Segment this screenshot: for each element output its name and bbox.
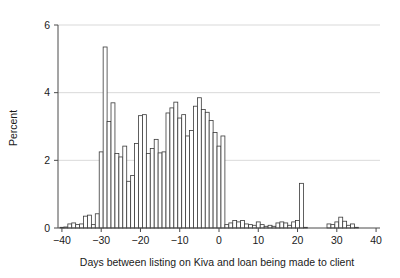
x-tick-label: 20 [292,234,304,246]
histogram-bar [335,222,339,228]
histogram-bar [115,154,119,228]
histogram-bar [213,133,217,228]
y-axis-label: Percent [7,110,19,146]
histogram-bar [280,222,284,228]
histogram-bar [150,148,154,228]
x-tick-label: 40 [370,234,382,246]
histogram-bar [343,221,347,228]
histogram-bar [87,215,91,228]
histogram-bar [248,225,252,228]
histogram-bar [241,221,245,228]
histogram-bar [111,103,115,228]
histogram-bar [142,115,146,228]
histogram-bar [186,136,190,228]
x-axis-ticks: −40−30−20−10010203040 [53,228,382,246]
histogram-bar [221,136,225,228]
histogram-bar [229,223,233,228]
x-axis-label: Days between listing on Kiva and loan be… [80,256,354,268]
histogram-bar [292,222,296,228]
histogram-bar [174,102,178,228]
histogram-bar [209,120,213,228]
histogram-bar [205,112,209,228]
histogram-bar [225,225,229,228]
histogram-bar [256,222,260,228]
histogram-bar [131,176,135,228]
histogram-bar [237,222,241,228]
histogram-bar [327,224,331,228]
histogram-bar [154,139,158,228]
histogram-bar [68,224,72,228]
y-tick-label: 4 [44,86,50,98]
histogram-bar [139,116,143,228]
histogram-bar [127,181,131,228]
histogram-bar [84,216,88,228]
chart-canvas: −40−30−20−10010203040 0246 Days between … [0,0,400,278]
histogram-bar [201,110,205,228]
histogram-bar [182,115,186,228]
histogram-bar [300,183,304,228]
histogram-bar [76,225,80,228]
y-tick-label: 0 [44,222,50,234]
histogram-bar [193,106,197,228]
histogram-bar [339,217,343,228]
x-tick-label: −40 [53,234,71,246]
histogram-bar [166,113,170,228]
histogram-bar [217,146,221,228]
histogram-bar [95,214,99,228]
x-tick-label: 0 [216,234,222,246]
histogram-bar [119,157,123,228]
histogram-bar [233,221,237,228]
histogram-bar [245,224,249,228]
y-axis-ticks: 0246 [44,19,58,234]
histogram-bar [170,108,174,228]
histogram-bar [178,118,182,228]
y-tick-label: 6 [44,19,50,31]
histogram-figure: −40−30−20−10010203040 0246 Days between … [0,0,400,278]
histogram-bar [80,224,84,228]
histogram-bar [158,153,162,228]
histogram-bar [103,47,107,228]
x-tick-label: −30 [92,234,110,246]
histogram-bar [107,121,111,228]
histogram-bar [123,146,127,228]
x-tick-label: 10 [252,234,264,246]
x-tick-label: −10 [171,234,189,246]
histogram-bar [331,225,335,228]
histogram-bar [146,154,150,228]
histogram-bar [276,223,280,228]
histogram-bar [162,152,166,228]
histogram-bar [296,221,300,228]
y-tick-label: 2 [44,154,50,166]
histogram-bar [72,223,76,228]
histogram-bar [284,223,288,228]
histogram-bar [197,98,201,228]
x-tick-label: −20 [132,234,150,246]
histogram-bar [91,225,95,228]
histogram-bar [99,152,103,228]
histogram-bars [60,47,358,228]
histogram-bar [190,131,194,228]
histogram-bar [135,143,139,228]
x-tick-label: 30 [331,234,343,246]
histogram-bar [260,225,264,228]
histogram-bar [351,224,355,228]
